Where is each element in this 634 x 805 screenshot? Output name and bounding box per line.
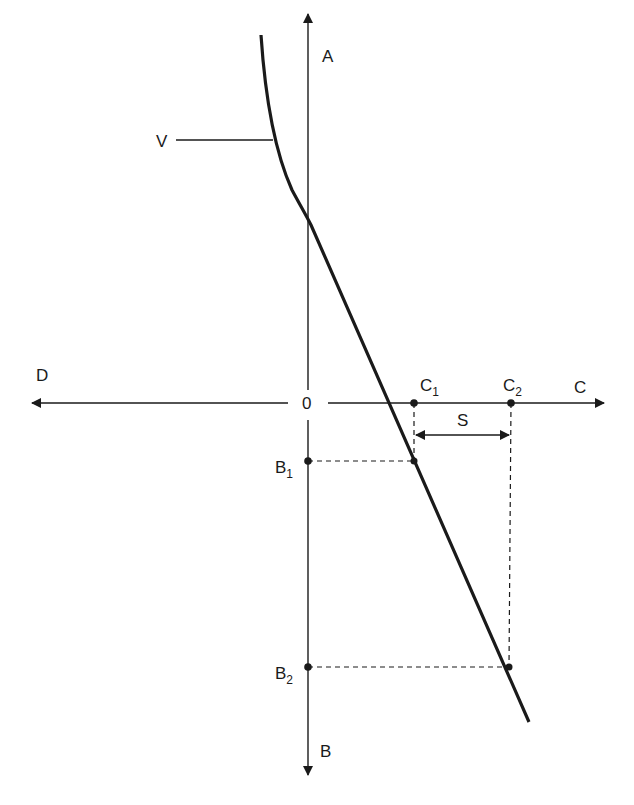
point-b2 (304, 663, 312, 671)
point-curve-b1 (411, 458, 418, 465)
axis-label-b: B (320, 742, 331, 761)
interval-label-s: S (457, 411, 468, 430)
point-label-c2: C2 (503, 376, 522, 399)
axis-label-a: A (322, 47, 334, 66)
diagram-canvas: A B C D 0 V S C1 C2 B1 B2 (0, 0, 634, 805)
projection-c2-vertical (509, 403, 511, 667)
curve-v (261, 35, 529, 722)
curve-label-v: V (156, 132, 168, 151)
point-c2 (507, 399, 515, 407)
points (304, 399, 515, 671)
point-label-b1: B1 (275, 458, 293, 481)
point-label-b2: B2 (275, 664, 293, 687)
point-b1 (304, 457, 312, 465)
projection-lines (308, 403, 511, 667)
point-c1 (410, 399, 418, 407)
axis-label-d: D (36, 366, 48, 385)
axis-label-c: C (574, 378, 586, 397)
origin-label: 0 (302, 394, 311, 413)
point-label-c1: C1 (420, 376, 439, 399)
point-curve-b2 (506, 664, 513, 671)
